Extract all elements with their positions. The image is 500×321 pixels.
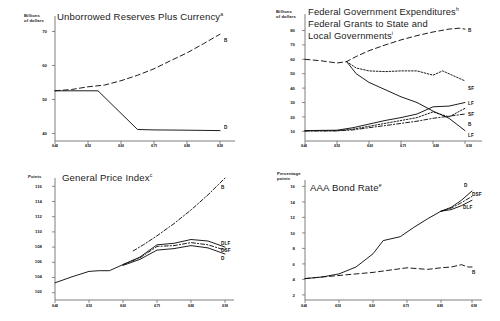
series-line-b — [305, 265, 472, 279]
series-line-sf-lower — [305, 108, 465, 131]
series-line-b-lower — [305, 114, 465, 131]
chart-plot-area — [0, 0, 250, 160]
series-line-b-upper — [305, 28, 465, 63]
panel-general-price-index: Points General Price Indexc 116 114 112 … — [0, 160, 250, 321]
chart-plot-area — [250, 160, 500, 321]
panel-federal-expenditures: Billions of dollars Federal Government E… — [250, 0, 500, 160]
series-line-sf-upper — [347, 62, 465, 81]
x-axis-ticks — [305, 300, 472, 303]
series-line-lf-upper — [347, 62, 465, 131]
chart-plot-area — [0, 160, 250, 321]
series-line-b — [133, 178, 225, 251]
series-line-d — [123, 246, 225, 266]
panel-aaa-bond-rate: Percentage points AAA Bond Ratee 16 14 1… — [250, 160, 500, 321]
panel-unborrowed-reserves: Billions of dollars Unborrowed Reserves … — [0, 0, 250, 160]
x-axis-ticks — [55, 300, 225, 303]
series-line-dsf — [123, 243, 225, 265]
series-line-b — [55, 34, 220, 91]
series-line-dlf — [55, 240, 225, 283]
series-line-d — [305, 191, 472, 279]
y-axis-ticks — [302, 31, 305, 132]
series-line-d — [55, 91, 220, 131]
chart-plot-area — [250, 0, 500, 160]
series-line-lf-lower — [305, 103, 465, 131]
